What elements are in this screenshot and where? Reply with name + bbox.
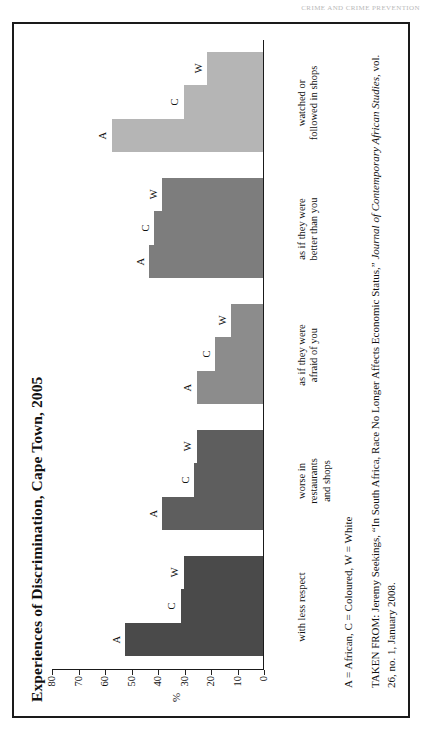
y-tick-mark bbox=[264, 670, 265, 675]
bar bbox=[194, 463, 263, 497]
x-category-label: as if they wereafraid of you bbox=[296, 295, 321, 415]
bar-series-label: W bbox=[170, 567, 181, 577]
bar-series-label: C bbox=[141, 225, 152, 232]
bar-series-label: C bbox=[170, 99, 181, 106]
y-tick-label: 30 bbox=[179, 676, 190, 687]
bar bbox=[184, 85, 264, 119]
bar bbox=[231, 304, 263, 338]
x-category-line: and shops bbox=[321, 421, 333, 541]
bar bbox=[162, 178, 263, 212]
bar-series-label: A bbox=[149, 510, 160, 518]
x-category-label: watched orfollowed in shops bbox=[296, 43, 321, 163]
bar bbox=[197, 371, 263, 405]
x-category-line: with less respect bbox=[296, 547, 308, 667]
x-category-label: with less respect bbox=[296, 547, 308, 667]
y-tick-label: 70 bbox=[73, 676, 84, 687]
bar bbox=[112, 119, 263, 153]
figure-title: Experiences of Discrimination, Cape Town… bbox=[28, 38, 46, 702]
bar-series-label: W bbox=[149, 189, 160, 199]
y-tick-label: 60 bbox=[100, 676, 111, 687]
y-tick-label: 80 bbox=[47, 676, 58, 687]
bar-group: ACW bbox=[52, 304, 263, 405]
y-tick-label: 40 bbox=[153, 676, 164, 687]
x-category-label: worse inrestaurantsand shops bbox=[296, 421, 333, 541]
bar bbox=[154, 211, 263, 245]
source-note: TAKEN FROM: Jeremy Seekings, “In South A… bbox=[368, 54, 400, 688]
rotated-figure-container: Experiences of Discrimination, Cape Town… bbox=[16, 26, 410, 718]
y-tick-mark bbox=[105, 670, 106, 675]
y-tick-mark bbox=[211, 670, 212, 675]
y-tick-mark bbox=[158, 670, 159, 675]
x-category-line: better than you bbox=[308, 169, 320, 289]
bar bbox=[181, 589, 263, 623]
y-tick-mark bbox=[132, 670, 133, 675]
plot-area: % 80706050403020100 ACWACWACWACWACW bbox=[52, 40, 292, 704]
y-tick-label: 20 bbox=[206, 676, 217, 687]
legend-note: A = African, C = Coloured, W = White bbox=[342, 38, 354, 688]
bar-series-label: A bbox=[98, 132, 109, 140]
bar bbox=[215, 337, 263, 371]
y-tick-label: 50 bbox=[126, 676, 137, 687]
bar-series-label: C bbox=[202, 351, 213, 358]
bar-series-label: C bbox=[167, 603, 178, 610]
y-tick-label: 10 bbox=[232, 676, 243, 687]
x-category-label: as if they werebetter than you bbox=[296, 169, 321, 289]
bar-series-label: W bbox=[218, 315, 229, 325]
y-axis-ticks: 80706050403020100 bbox=[52, 670, 264, 704]
bar-series-label: A bbox=[136, 258, 147, 266]
bar-series-label: W bbox=[183, 441, 194, 451]
y-tick-mark bbox=[79, 670, 80, 675]
source-prefix: TAKEN FROM: Jeremy Seekings, “In South A… bbox=[369, 260, 381, 688]
bar bbox=[207, 52, 263, 86]
book-page: CRIME AND CRIME PREVENTION Experiences o… bbox=[0, 0, 424, 729]
bar-group: ACW bbox=[52, 556, 263, 657]
bar-group: ACW bbox=[52, 430, 263, 531]
bar-series-label: A bbox=[183, 384, 194, 392]
y-tick-mark bbox=[52, 670, 53, 675]
x-category-line: as if they were bbox=[296, 295, 308, 415]
x-category-line: afraid of you bbox=[308, 295, 320, 415]
running-head: CRIME AND CRIME PREVENTION bbox=[0, 0, 424, 16]
bar bbox=[162, 497, 263, 531]
bar-plot: ACWACWACWACWACW bbox=[52, 40, 264, 670]
y-tick-label: 0 bbox=[259, 676, 270, 681]
y-tick-mark bbox=[185, 670, 186, 675]
x-category-line: as if they were bbox=[296, 169, 308, 289]
bar bbox=[125, 623, 263, 657]
bar-group: ACW bbox=[52, 178, 263, 279]
bar-series-label: C bbox=[181, 477, 192, 484]
x-category-line: worse in bbox=[296, 421, 308, 541]
x-category-line: watched or bbox=[296, 43, 308, 163]
x-category-line: followed in shops bbox=[308, 43, 320, 163]
x-axis-category-labels: with less respectworse inrestaurantsand … bbox=[292, 6, 326, 670]
bar bbox=[197, 430, 263, 464]
figure-frame: Experiences of Discrimination, Cape Town… bbox=[12, 22, 410, 718]
bar-series-label: A bbox=[112, 636, 123, 644]
bar bbox=[184, 556, 264, 590]
bar-series-label: W bbox=[194, 63, 205, 73]
bar bbox=[149, 245, 263, 279]
y-tick-mark bbox=[238, 670, 239, 675]
bar-group: ACW bbox=[52, 52, 263, 153]
source-journal: Journal of Contemporary African Studies bbox=[369, 77, 381, 260]
figure-content: Experiences of Discrimination, Cape Town… bbox=[16, 26, 410, 718]
x-category-line: restaurants bbox=[308, 421, 320, 541]
